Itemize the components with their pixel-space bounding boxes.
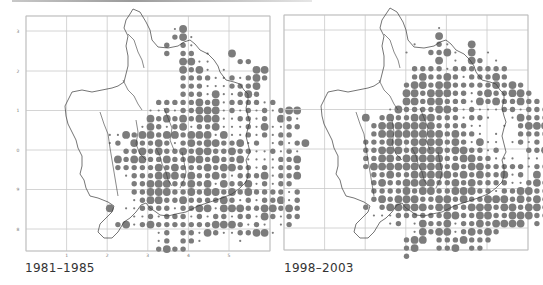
- occurrence-dot: [469, 66, 474, 71]
- occurrence-dot: [469, 82, 474, 87]
- occurrence-dot: [500, 220, 508, 228]
- occurrence-dot: [411, 179, 419, 187]
- occurrence-dot: [468, 40, 476, 48]
- occurrence-dot: [533, 171, 541, 179]
- occurrence-dot: [395, 163, 403, 171]
- occurrence-dot: [419, 220, 427, 228]
- occurrence-dot: [461, 205, 466, 210]
- occurrence-dot: [363, 205, 368, 210]
- occurrence-dot: [411, 114, 419, 122]
- occurrence-dot: [419, 146, 427, 154]
- occurrence-dot: [460, 187, 468, 195]
- occurrence-dot: [378, 146, 386, 154]
- occurrence-dot: [471, 125, 473, 127]
- occurrence-dot: [469, 245, 474, 250]
- occurrence-dot: [453, 66, 458, 71]
- occurrence-dot: [476, 138, 484, 146]
- occurrence-dot: [469, 221, 474, 226]
- occurrence-dot: [485, 99, 490, 104]
- occurrence-dot: [427, 171, 435, 179]
- occurrence-dot: [517, 187, 525, 195]
- occurrence-dot: [403, 122, 411, 130]
- occurrence-dot: [404, 82, 409, 87]
- occurrence-dot: [511, 141, 513, 143]
- occurrence-dot: [436, 221, 441, 226]
- occurrence-dot: [411, 130, 419, 138]
- occurrence-dot: [502, 188, 507, 193]
- occurrence-dot: [454, 51, 456, 53]
- occurrence-dot: [485, 156, 490, 161]
- occurrence-dot: [379, 188, 384, 193]
- occurrence-dot: [435, 146, 443, 154]
- occurrence-dot: [534, 213, 539, 218]
- occurrence-dot: [427, 179, 435, 187]
- occurrence-dot: [461, 131, 466, 136]
- occurrence-dot: [479, 133, 481, 135]
- occurrence-dot: [509, 81, 517, 89]
- occurrence-dot: [396, 188, 401, 193]
- occurrence-dot: [404, 237, 409, 242]
- occurrence-dot: [411, 171, 419, 179]
- occurrence-dot: [517, 195, 525, 203]
- occurrence-dot: [461, 213, 466, 218]
- occurrence-dot: [477, 229, 482, 234]
- river-line: [384, 34, 400, 68]
- occurrence-dot: [471, 141, 473, 143]
- occurrence-dot: [526, 131, 531, 136]
- occurrence-dot: [443, 81, 451, 89]
- occurrence-dot: [477, 66, 482, 71]
- occurrence-dot: [427, 187, 435, 195]
- occurrence-dot: [411, 98, 419, 106]
- occurrence-dot: [517, 212, 525, 220]
- occurrence-dot: [428, 197, 433, 202]
- occurrence-dot: [469, 115, 474, 120]
- occurrence-dot: [495, 141, 497, 143]
- occurrence-dot: [411, 122, 419, 130]
- occurrence-dot: [445, 148, 450, 153]
- occurrence-dot: [427, 146, 435, 154]
- occurrence-dot: [435, 89, 443, 97]
- occurrence-dot: [461, 82, 466, 87]
- occurrence-dot: [479, 125, 481, 127]
- occurrence-dot: [453, 123, 458, 128]
- occurrence-dot: [453, 74, 458, 79]
- occurrence-dot: [453, 197, 458, 202]
- occurrence-dot: [528, 157, 530, 159]
- occurrence-dot: [411, 138, 419, 146]
- occurrence-dot: [469, 107, 474, 112]
- occurrence-dot: [461, 123, 466, 128]
- occurrence-dot: [476, 212, 484, 220]
- occurrence-dot: [469, 148, 474, 153]
- occurrence-dot: [518, 172, 523, 177]
- occurrence-dot: [386, 203, 394, 211]
- occurrence-dot: [436, 115, 441, 120]
- occurrence-dot: [463, 117, 465, 119]
- occurrence-dot: [477, 180, 482, 185]
- occurrence-dot: [452, 138, 460, 146]
- occurrence-dot: [509, 89, 517, 97]
- occurrence-dot: [379, 205, 384, 210]
- occurrence-dot: [395, 130, 403, 138]
- occurrence-dot: [485, 221, 490, 226]
- occurrence-dot: [363, 164, 368, 169]
- occurrence-dot: [509, 203, 517, 211]
- occurrence-dot: [492, 73, 500, 81]
- occurrence-dot: [445, 180, 450, 185]
- occurrence-dot: [443, 212, 451, 220]
- occurrence-dot: [492, 195, 500, 203]
- occurrence-dot: [411, 195, 419, 203]
- occurrence-dot: [493, 148, 498, 153]
- occurrence-dot: [463, 108, 465, 110]
- occurrence-dot: [477, 58, 482, 63]
- occurrence-dot: [445, 131, 450, 136]
- occurrence-dot: [492, 98, 500, 106]
- occurrence-dot: [454, 223, 456, 225]
- occurrence-dot: [388, 180, 393, 185]
- occurrence-dot: [435, 130, 443, 138]
- occurrence-dot: [414, 43, 416, 45]
- occurrence-dot: [453, 99, 458, 104]
- occurrence-dot: [404, 172, 409, 177]
- occurrence-dot: [378, 179, 386, 187]
- occurrence-dot: [468, 228, 476, 236]
- occurrence-dot: [453, 115, 458, 120]
